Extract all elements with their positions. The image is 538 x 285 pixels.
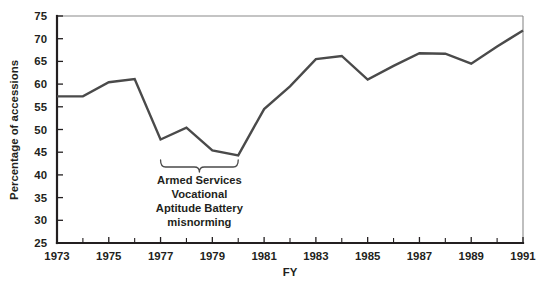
y-tick-label-75: 75 xyxy=(34,10,47,22)
y-tick-label-55: 55 xyxy=(34,101,47,113)
annotation-line-0: Armed Services xyxy=(157,174,242,186)
x-tick-label-1977: 1977 xyxy=(148,250,173,262)
y-tick-label-70: 70 xyxy=(34,33,47,45)
x-tick-label-1989: 1989 xyxy=(459,250,484,262)
y-tick-label-35: 35 xyxy=(34,192,47,204)
x-tick-label-1981: 1981 xyxy=(251,250,277,262)
line-chart: 2530354045505560657075 19731975197719791… xyxy=(0,0,538,285)
x-tick-label-1985: 1985 xyxy=(355,250,381,262)
x-tick-label-1987: 1987 xyxy=(407,250,432,262)
y-tick-label-50: 50 xyxy=(34,124,47,136)
y-axis-title: Percentage of accessions xyxy=(8,60,20,200)
x-axis-title: FY xyxy=(283,266,298,278)
y-tick-label-25: 25 xyxy=(34,237,47,249)
y-tick-label-45: 45 xyxy=(34,146,47,158)
y-tick-label-60: 60 xyxy=(34,78,47,90)
x-tick-label-1991: 1991 xyxy=(510,250,536,262)
x-tick-label-1983: 1983 xyxy=(303,250,328,262)
x-tick-label-1973: 1973 xyxy=(44,250,69,262)
y-tick-label-65: 65 xyxy=(34,55,47,67)
x-tick-label-1975: 1975 xyxy=(96,250,122,262)
annotation-line-3: misnorming xyxy=(167,216,231,228)
chart-container: 2530354045505560657075 19731975197719791… xyxy=(0,0,538,285)
annotation-line-2: Aptitude Battery xyxy=(156,202,244,214)
y-tick-label-30: 30 xyxy=(34,214,47,226)
x-tick-label-1979: 1979 xyxy=(200,250,225,262)
annotation-line-1: Vocational xyxy=(172,188,228,200)
y-tick-label-40: 40 xyxy=(34,169,47,181)
